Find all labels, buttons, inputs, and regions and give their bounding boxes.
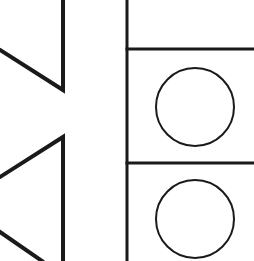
diagram-canvas bbox=[0, 0, 254, 261]
